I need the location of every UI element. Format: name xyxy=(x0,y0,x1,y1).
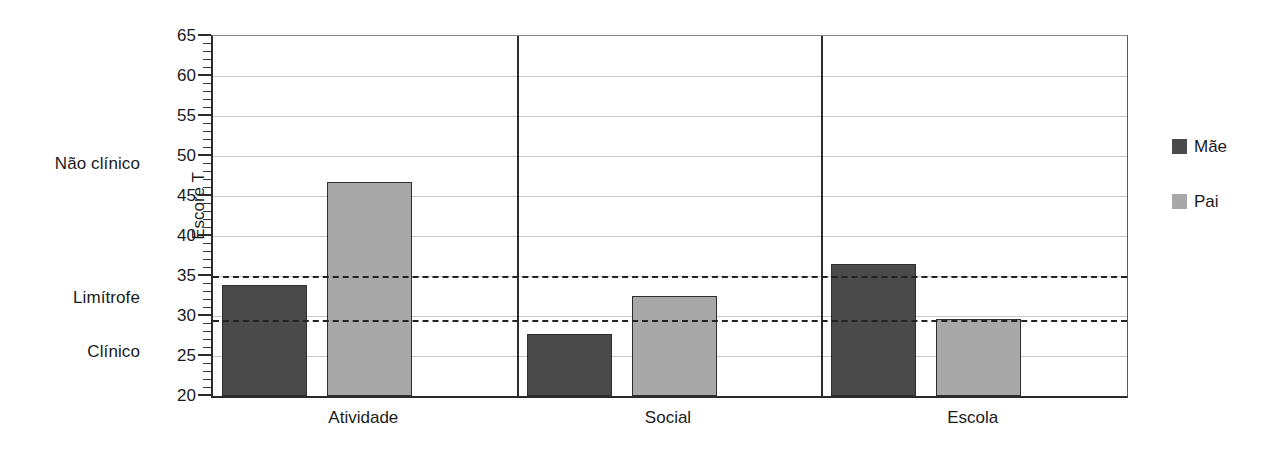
y-tick-label: 65 xyxy=(156,27,196,44)
y-tick-minor xyxy=(203,243,211,244)
y-tick-major xyxy=(198,154,211,156)
x-axis-label: Social xyxy=(568,408,768,428)
y-tick-minor xyxy=(203,67,211,68)
y-tick-minor xyxy=(203,179,211,180)
y-tick-label: 45 xyxy=(156,187,196,204)
y-tick-major xyxy=(198,274,211,276)
y-tick-minor xyxy=(203,203,211,204)
y-tick-minor xyxy=(203,331,211,332)
y-tick-minor xyxy=(203,339,211,340)
chart-legend: MãePai xyxy=(1172,138,1227,248)
y-tick-minor xyxy=(203,259,211,260)
y-tick-major xyxy=(198,194,211,196)
y-tick-minor xyxy=(203,163,211,164)
bar xyxy=(222,285,307,396)
y-tick-minor xyxy=(203,219,211,220)
bar-chart: Escore T Não clínicoLimítrofeClínico 202… xyxy=(0,0,1262,451)
bar xyxy=(831,264,916,396)
y-tick-label: 60 xyxy=(156,67,196,84)
x-axis-label: Escola xyxy=(873,408,1073,428)
y-tick-minor xyxy=(203,251,211,252)
y-tick-label: 25 xyxy=(156,347,196,364)
y-tick-minor xyxy=(203,211,211,212)
legend-label: Pai xyxy=(1194,193,1219,210)
y-tick-label: 40 xyxy=(156,227,196,244)
y-tick-major xyxy=(198,234,211,236)
bar xyxy=(327,182,412,396)
group-divider xyxy=(821,36,823,396)
plot-area xyxy=(211,35,1128,398)
band-label: Não clínico xyxy=(0,154,140,174)
y-tick-minor xyxy=(203,347,211,348)
y-tick-minor xyxy=(203,267,211,268)
y-tick-minor xyxy=(203,299,211,300)
y-tick-minor xyxy=(203,83,211,84)
y-tick-minor xyxy=(203,99,211,100)
y-tick-minor xyxy=(203,307,211,308)
y-tick-label: 50 xyxy=(156,147,196,164)
y-tick-minor xyxy=(203,379,211,380)
y-tick-minor xyxy=(203,283,211,284)
gridline xyxy=(213,156,1127,157)
y-tick-minor xyxy=(203,387,211,388)
legend-item: Mãe xyxy=(1172,138,1227,155)
legend-swatch-icon xyxy=(1172,139,1187,154)
y-tick-minor xyxy=(203,91,211,92)
gridline xyxy=(213,116,1127,117)
y-tick-label: 30 xyxy=(156,307,196,324)
x-axis-label: Atividade xyxy=(263,408,463,428)
y-tick-minor xyxy=(203,187,211,188)
y-tick-minor xyxy=(203,227,211,228)
gridline xyxy=(213,76,1127,77)
y-tick-label: 20 xyxy=(156,387,196,404)
band-label: Clínico xyxy=(0,342,140,362)
y-tick-minor xyxy=(203,123,211,124)
bar xyxy=(527,334,612,396)
reference-line xyxy=(213,276,1127,278)
legend-label: Mãe xyxy=(1194,138,1227,155)
bar xyxy=(632,296,717,396)
y-tick-major xyxy=(198,114,211,116)
y-tick-minor xyxy=(203,107,211,108)
y-tick-minor xyxy=(203,371,211,372)
legend-item: Pai xyxy=(1172,193,1227,210)
group-divider xyxy=(517,36,519,396)
y-tick-major xyxy=(198,34,211,36)
y-tick-label: 55 xyxy=(156,107,196,124)
y-tick-major xyxy=(198,394,211,396)
y-tick-minor xyxy=(203,147,211,148)
y-tick-minor xyxy=(203,131,211,132)
band-label: Limítrofe xyxy=(0,288,140,308)
y-tick-minor xyxy=(203,139,211,140)
y-tick-minor xyxy=(203,43,211,44)
y-tick-major xyxy=(198,74,211,76)
bar xyxy=(936,319,1021,396)
y-tick-minor xyxy=(203,291,211,292)
reference-line xyxy=(213,320,1127,322)
y-tick-minor xyxy=(203,323,211,324)
y-tick-minor xyxy=(203,171,211,172)
y-tick-label: 35 xyxy=(156,267,196,284)
y-tick-minor xyxy=(203,59,211,60)
y-tick-major xyxy=(198,354,211,356)
y-tick-minor xyxy=(203,51,211,52)
y-tick-minor xyxy=(203,363,211,364)
legend-swatch-icon xyxy=(1172,194,1187,209)
y-tick-major xyxy=(198,314,211,316)
